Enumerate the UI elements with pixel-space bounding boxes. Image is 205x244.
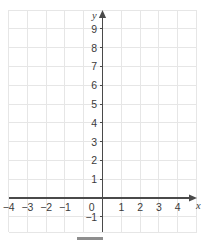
x-tick-label-minus2: −2 — [40, 202, 52, 213]
y-axis-label: y — [92, 11, 97, 22]
bottom-marker-bar — [77, 237, 103, 240]
y-tick-label-5: 5 — [79, 99, 97, 110]
x-tick-label-3: 3 — [156, 202, 162, 213]
x-tick-label-minus3: −3 — [22, 202, 34, 213]
x-tick-label-2: 2 — [137, 202, 143, 213]
x-axis-label: x — [196, 201, 201, 212]
coordinate-grid-figure: −4 −3 −2 −1 0 1 2 3 4 9 8 7 6 5 4 3 2 1 … — [0, 0, 205, 244]
y-tick-label-4: 4 — [79, 118, 97, 129]
x-tick-label-4: 4 — [175, 202, 181, 213]
y-tick-label-7: 7 — [79, 61, 97, 72]
x-tick-label-minus1: −1 — [59, 202, 71, 213]
y-tick-label-1: 1 — [79, 174, 97, 185]
y-tick-label-6: 6 — [79, 80, 97, 91]
y-tick-label-8: 8 — [79, 42, 97, 53]
y-tick-label-9: 9 — [79, 24, 97, 35]
x-tick-label-1: 1 — [118, 202, 124, 213]
y-tick-label-2: 2 — [79, 155, 97, 166]
y-tick-label-3: 3 — [79, 136, 97, 147]
y-tick-label-minus1: −1 — [79, 212, 97, 223]
x-tick-label-minus4: −4 — [3, 202, 15, 213]
